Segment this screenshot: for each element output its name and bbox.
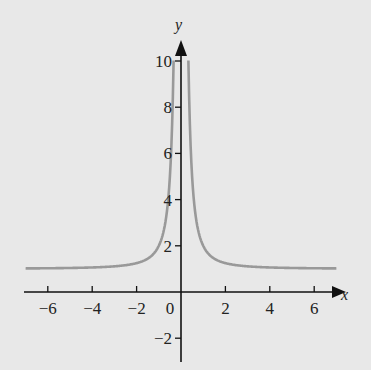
x-axis-label: x bbox=[340, 286, 348, 303]
x-tick-label: −6 bbox=[39, 299, 57, 318]
y-tick-label: 6 bbox=[164, 144, 173, 163]
curve-branch bbox=[188, 61, 336, 269]
y-tick-label: 10 bbox=[155, 52, 172, 71]
y-tick-label: 2 bbox=[164, 237, 173, 256]
x-ticks: −6−4−20246 bbox=[39, 286, 319, 318]
x-tick-label: 0 bbox=[166, 299, 175, 318]
x-tick-label: 2 bbox=[221, 299, 230, 318]
y-axis-arrow-icon bbox=[175, 40, 187, 56]
y-axis-label: y bbox=[173, 16, 183, 34]
curve-branch bbox=[26, 61, 174, 269]
y-tick-label: 8 bbox=[164, 98, 173, 117]
y-tick-label: −2 bbox=[154, 329, 172, 348]
plot-area: x y −6−4−20246 −2246810 bbox=[0, 0, 371, 370]
axes: x y bbox=[24, 16, 348, 362]
chart: x y −6−4−20246 −2246810 bbox=[0, 0, 371, 370]
y-tick-label: 4 bbox=[164, 191, 173, 210]
x-tick-label: −2 bbox=[128, 299, 146, 318]
x-tick-label: 6 bbox=[310, 299, 319, 318]
x-tick-label: 4 bbox=[266, 299, 275, 318]
x-tick-label: −4 bbox=[83, 299, 102, 318]
